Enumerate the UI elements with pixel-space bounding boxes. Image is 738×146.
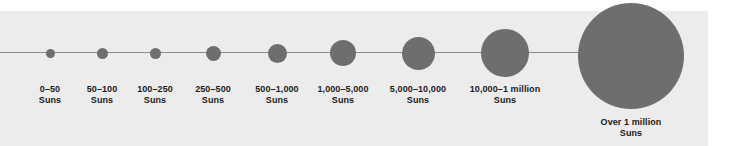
- mass-node: [402, 37, 435, 70]
- caption-range: Over 1 million: [601, 117, 662, 128]
- caption-unit: Suns: [137, 95, 173, 106]
- caption-unit: Suns: [390, 95, 446, 106]
- caption-unit: Suns: [601, 128, 662, 139]
- caption-unit: Suns: [470, 95, 541, 106]
- star-mass-scale-figure: 0–50Suns50–100Suns100–250Suns250–500Suns…: [0, 0, 738, 146]
- mass-node: [578, 3, 684, 109]
- caption-unit: Suns: [87, 95, 118, 106]
- mass-node-caption: 50–100Suns: [87, 84, 118, 106]
- caption-unit: Suns: [255, 95, 298, 106]
- caption-range: 100–250: [137, 84, 173, 95]
- caption-range: 50–100: [87, 84, 118, 95]
- mass-node: [150, 48, 161, 59]
- mass-node-caption: 0–50Suns: [39, 84, 61, 106]
- caption-unit: Suns: [195, 95, 231, 106]
- caption-range: 5,000–10,000: [390, 84, 446, 95]
- mass-node: [46, 49, 55, 58]
- mass-node-caption: 250–500Suns: [195, 84, 231, 106]
- caption-range: 10,000–1 million: [470, 84, 541, 95]
- mass-node-caption: 1,000–5,000Suns: [317, 84, 368, 106]
- caption-unit: Suns: [317, 95, 368, 106]
- mass-node: [268, 44, 287, 63]
- mass-node: [206, 46, 221, 61]
- mass-node-caption: 10,000–1 millionSuns: [470, 84, 541, 106]
- caption-range: 0–50: [39, 84, 61, 95]
- mass-node-caption: 500–1,000Suns: [255, 84, 298, 106]
- mass-node-caption: 100–250Suns: [137, 84, 173, 106]
- caption-range: 1,000–5,000: [317, 84, 368, 95]
- caption-range: 500–1,000: [255, 84, 298, 95]
- caption-range: 250–500: [195, 84, 231, 95]
- mass-node: [97, 48, 108, 59]
- caption-unit: Suns: [39, 95, 61, 106]
- mass-node-caption: Over 1 millionSuns: [601, 117, 662, 139]
- mass-node: [330, 40, 356, 66]
- mass-node-caption: 5,000–10,000Suns: [390, 84, 446, 106]
- mass-node: [481, 29, 529, 77]
